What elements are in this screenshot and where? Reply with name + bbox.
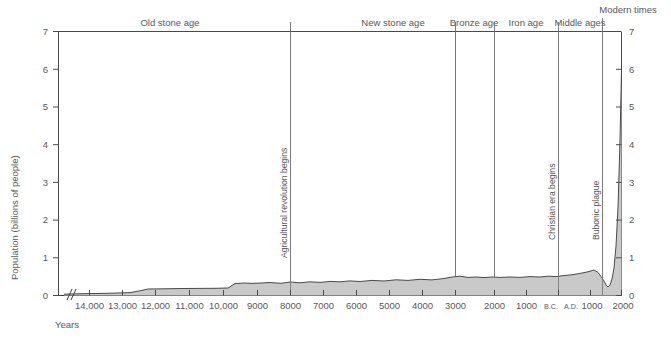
- era-label-modern-times: Modern times: [599, 4, 657, 15]
- y-tick-label-left-7: 7: [43, 26, 48, 37]
- era-label-old-stone-age: Old stone age: [140, 17, 199, 28]
- y-tick-label-left-6: 6: [43, 64, 48, 75]
- x-tick-label-3000: 3000: [445, 300, 466, 311]
- y-tick-label-right-4: 4: [629, 139, 634, 150]
- y-tick-label-left-2: 2: [43, 214, 48, 225]
- x-tick-label-1000-bc: 1000: [516, 300, 537, 311]
- y-tick-label-left-4: 4: [43, 139, 48, 150]
- x-axis-title: Years: [55, 319, 79, 330]
- x-tick-label-13000: 13,000: [108, 300, 137, 311]
- x-tick-label-2000-bc: 2000: [484, 300, 505, 311]
- y-tick-label-right-1: 1: [629, 252, 634, 263]
- y-tick-label-left-5: 5: [43, 101, 48, 112]
- x-tick-label-11000: 11,000: [175, 300, 203, 311]
- x-tick-label-bc-marker: B.C.: [544, 302, 558, 311]
- y-tick-label-right-7: 7: [629, 26, 634, 37]
- x-tick-label-7000: 7000: [313, 300, 334, 311]
- event-label-christian-era: Christian era begins: [547, 164, 557, 240]
- y-axis-left-ticks: 0 1 2 3 4 5 6 7: [43, 26, 59, 301]
- x-tick-label-5000: 5000: [379, 300, 400, 311]
- x-tick-label-10000: 10,000: [209, 300, 238, 311]
- x-tick-label-6000: 6000: [346, 300, 367, 311]
- y-tick-label-left-1: 1: [43, 252, 48, 263]
- event-label-agricultural-revolution: Agricultural revolution begins: [279, 148, 289, 258]
- y-tick-label-right-3: 3: [629, 177, 634, 188]
- population-chart-figure: Old stone age New stone age Bronze age I…: [0, 0, 671, 338]
- y-tick-label-left-0: 0: [43, 290, 48, 301]
- era-label-new-stone-age: New stone age: [361, 17, 424, 28]
- era-label-iron-age: Iron age: [509, 17, 544, 28]
- x-tick-label-12000: 12,000: [141, 300, 170, 311]
- y-tick-label-left-3: 3: [43, 177, 48, 188]
- x-tick-label-2000-ad: 2000: [612, 300, 633, 311]
- y-tick-label-right-2: 2: [629, 214, 634, 225]
- population-curve: [64, 70, 622, 294]
- y-axis-title: Population (billions of people): [9, 155, 20, 280]
- x-tick-label-14000: 14,000: [75, 300, 104, 311]
- era-label-bronze-age: Bronze age: [450, 17, 499, 28]
- population-area: [64, 70, 622, 296]
- event-label-bubonic-plague: Bubonic plague: [591, 181, 601, 240]
- y-tick-label-right-6: 6: [629, 64, 634, 75]
- x-tick-label-1000-ad: 1000: [581, 300, 602, 311]
- era-label-middle-ages: Middle ages: [554, 17, 605, 28]
- population-chart: Old stone age New stone age Bronze age I…: [0, 0, 671, 338]
- y-tick-label-right-5: 5: [629, 101, 634, 112]
- x-axis-tick-labels: 14,000 13,000 12,000 11,000 10,000 9000 …: [75, 300, 634, 311]
- x-tick-label-ad-marker: A.D.: [564, 302, 578, 311]
- x-tick-label-8000: 8000: [280, 300, 301, 311]
- x-tick-label-9000: 9000: [247, 300, 268, 311]
- x-tick-label-4000: 4000: [412, 300, 433, 311]
